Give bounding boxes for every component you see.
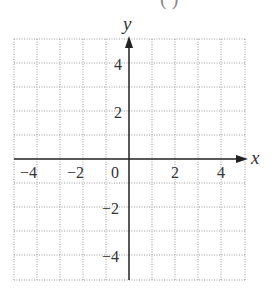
x-tick-label: 2	[171, 165, 179, 181]
coordinate-grid	[0, 0, 276, 292]
y-tick-label: 4	[114, 57, 122, 73]
x-tick-label: −2	[67, 165, 84, 181]
x-axis-label: x	[251, 148, 259, 167]
x-tick-label: 0	[111, 165, 119, 181]
x-tick-label: 4	[217, 165, 225, 181]
x-tick-label: −4	[20, 165, 37, 181]
y-tick-label: −2	[102, 201, 119, 217]
y-axis-arrow-icon	[125, 36, 133, 48]
y-axis-label: y	[123, 14, 131, 33]
y-tick-label: −4	[102, 249, 119, 265]
x-axis-arrow-icon	[236, 155, 248, 163]
y-tick-label: 2	[114, 105, 122, 121]
